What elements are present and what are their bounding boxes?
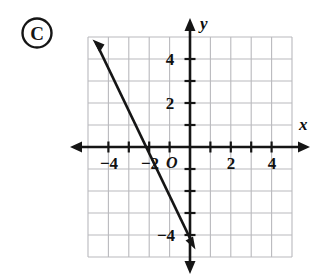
x-tick-label-neg2: −2 (137, 154, 163, 174)
y-tick-label-4: 4 (160, 50, 180, 70)
x-tick-label-2: 2 (221, 154, 241, 174)
y-tick-label-neg4: −4 (152, 226, 180, 246)
y-axis-bottom-arrow (185, 261, 196, 274)
x-axis-label: x (299, 115, 308, 135)
line-upper-arrow (93, 40, 105, 53)
y-axis-label: y (200, 14, 208, 34)
y-tick-label-2: 2 (160, 94, 180, 114)
x-tick-label-neg4: −4 (96, 154, 122, 174)
x-axis-left-arrow (70, 142, 82, 153)
graph-figure: C (0, 0, 325, 276)
x-tick-label-4: 4 (262, 154, 282, 174)
y-axis-top-arrow (185, 18, 196, 31)
x-axis-right-arrow (298, 142, 310, 153)
origin-label: O (166, 154, 178, 172)
